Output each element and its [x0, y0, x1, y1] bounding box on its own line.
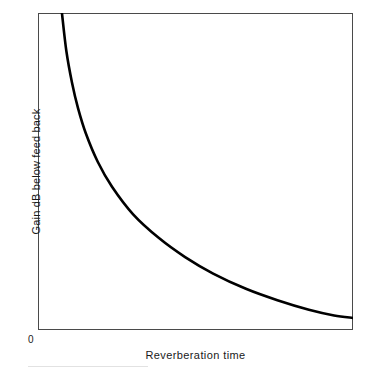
decay-curve-path: [62, 13, 353, 318]
origin-label: 0: [28, 334, 34, 346]
chart-figure: Gain dB below feed back Reverberation ti…: [0, 0, 365, 370]
scan-edge-artifact: [28, 366, 148, 367]
decay-curve-layer: [38, 13, 353, 330]
decay-curve-svg: [38, 13, 353, 330]
x-axis-label: Reverberation time: [38, 349, 353, 361]
y-axis-label: Gain dB below feed back: [27, 13, 45, 330]
